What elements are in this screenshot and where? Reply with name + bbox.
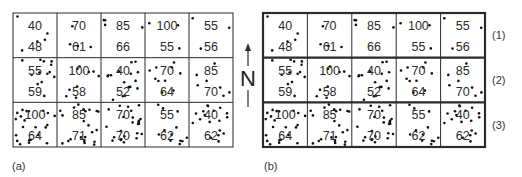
point-dot xyxy=(344,143,347,146)
cell-top-value: 70 xyxy=(411,64,425,78)
cell-top-value: 85 xyxy=(367,19,381,33)
cell-top-value: 40 xyxy=(456,108,470,122)
north-arrow-icon xyxy=(245,43,251,51)
grid-cell: 10055 xyxy=(399,19,432,54)
point-dot xyxy=(107,74,110,77)
point-dot xyxy=(195,112,198,115)
point-dot xyxy=(164,80,167,83)
point-dot xyxy=(139,118,142,121)
point-dot xyxy=(385,80,388,83)
point-dot xyxy=(89,46,92,49)
cell-bottom-value: 66 xyxy=(116,40,130,54)
point-dot xyxy=(415,80,418,83)
cell-bottom-value: 66 xyxy=(367,40,381,54)
grid-cell: 8571 xyxy=(59,103,100,146)
grid-cell: 10058 xyxy=(315,64,350,99)
point-dot xyxy=(157,104,160,107)
point-dot xyxy=(112,99,115,102)
point-dot xyxy=(448,84,451,87)
cell-top-value: 55 xyxy=(204,19,218,33)
point-dot xyxy=(21,109,24,112)
point-dot xyxy=(95,110,98,113)
point-dot xyxy=(119,105,122,108)
point-dot xyxy=(206,104,209,107)
point-dot xyxy=(179,139,182,142)
point-dot xyxy=(304,115,307,118)
cell-bottom-value: 56 xyxy=(204,40,218,54)
point-dot xyxy=(392,26,395,29)
cell-bottom-value: 58 xyxy=(323,85,337,99)
point-dot xyxy=(148,69,151,72)
grid-cell: 8571 xyxy=(309,103,350,146)
point-dot xyxy=(266,112,269,115)
point-dot xyxy=(97,75,100,78)
point-dot xyxy=(46,142,49,145)
point-dot xyxy=(131,121,134,124)
cell-top-value: 70 xyxy=(367,108,381,122)
point-dot xyxy=(356,126,359,129)
point-dot xyxy=(53,115,56,118)
point-dot xyxy=(272,126,275,129)
point-dot xyxy=(266,15,269,18)
point-dot xyxy=(480,91,483,94)
point-dot xyxy=(176,110,179,113)
point-dot xyxy=(470,120,473,123)
point-dot xyxy=(44,126,47,129)
row-label: (1) xyxy=(492,29,505,41)
cell-top-value: 70 xyxy=(160,64,174,78)
cell-top-value: 70 xyxy=(116,108,130,122)
point-dot xyxy=(374,81,377,84)
cell-top-value: 85 xyxy=(116,19,130,33)
point-dot xyxy=(50,64,53,67)
point-dot xyxy=(312,114,315,117)
grid-cell: 5559 xyxy=(271,58,306,98)
point-dot xyxy=(270,115,273,118)
figure: 4048706185661005555565559100584052706485… xyxy=(0,0,522,177)
cell-top-value: 85 xyxy=(72,108,86,122)
point-dot xyxy=(16,15,19,18)
point-dot xyxy=(389,104,392,107)
point-dot xyxy=(431,72,434,75)
point-dot xyxy=(315,95,318,98)
point-dot xyxy=(105,126,108,129)
grid-cell: 10064 xyxy=(265,108,307,145)
panel-b-label: (b) xyxy=(264,160,277,172)
point-dot xyxy=(200,47,203,50)
point-dot xyxy=(266,140,269,143)
grid-cell: 8570 xyxy=(195,62,230,98)
point-dot xyxy=(91,131,94,134)
cell-top-value: 100 xyxy=(157,19,178,33)
grid-cell: 7064 xyxy=(148,61,181,98)
cell-top-value: 55 xyxy=(411,108,425,122)
point-dot xyxy=(134,80,137,83)
point-dot xyxy=(222,94,225,97)
point-dot xyxy=(474,132,477,135)
cell-bottom-value: 52 xyxy=(116,85,130,99)
point-dot xyxy=(130,61,133,64)
point-dot xyxy=(312,142,315,145)
cell-bottom-value: 71 xyxy=(323,129,337,143)
point-dot xyxy=(451,47,454,50)
point-dot xyxy=(39,58,42,61)
cell-top-value: 55 xyxy=(160,108,174,122)
point-dot xyxy=(443,122,446,125)
point-dot xyxy=(148,22,151,25)
point-dot xyxy=(48,71,51,74)
point-dot xyxy=(471,86,474,89)
point-dot xyxy=(443,17,446,20)
point-dot xyxy=(339,109,342,112)
grid-cell: 4048 xyxy=(16,15,49,54)
point-dot xyxy=(370,105,373,108)
point-dot xyxy=(338,124,341,127)
grid-cell: 7061 xyxy=(319,19,343,54)
grid-cell: 10055 xyxy=(148,19,181,54)
grid-cell: 7070 xyxy=(356,104,394,144)
cell-bottom-value: 64 xyxy=(278,129,292,143)
cell-bottom-value: 70 xyxy=(204,85,218,99)
grid-cell: 5556 xyxy=(191,17,230,54)
cell-bottom-value: 62 xyxy=(411,129,425,143)
panel-b: 4048706185661005555565559100584052706485… xyxy=(263,13,505,147)
grid-cell: 4062 xyxy=(192,104,229,143)
grid-cell: 5559 xyxy=(21,58,56,98)
cell-top-value: 55 xyxy=(456,19,470,33)
